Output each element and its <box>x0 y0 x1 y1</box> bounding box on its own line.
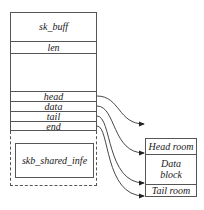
arrow-data-to-data-block <box>97 106 144 153</box>
pointer-arrows <box>0 0 204 210</box>
arrow-end-to-buffer-end <box>97 126 144 196</box>
arrow-head-to-head-room <box>97 96 144 124</box>
arrow-tail-to-tail-room <box>97 116 144 183</box>
